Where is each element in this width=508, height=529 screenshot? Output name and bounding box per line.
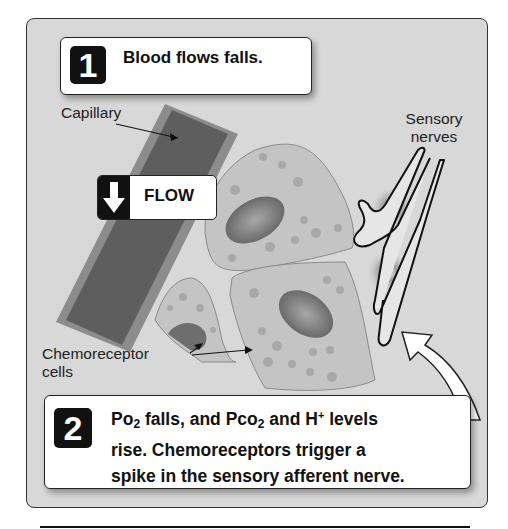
- step-2-badge: 2: [54, 408, 92, 448]
- step-2-line-1: Po2 falls, and Pco2 and H+ levels: [111, 402, 461, 437]
- sensory-nerves-label: Sensory nerves: [394, 110, 474, 146]
- chemo-label-line1: Chemoreceptor: [42, 345, 149, 363]
- po-text: Po: [111, 409, 133, 429]
- sensory-label-line2: nerves: [394, 128, 474, 146]
- chemoreceptor-cell-upper: [205, 144, 354, 270]
- step-1-text: Blood flows falls.: [123, 48, 263, 68]
- chemoreceptor-cell-lower: [230, 262, 375, 390]
- step-1-callout: 1 Blood flows falls.: [60, 37, 312, 95]
- capillary-label: Capillary: [61, 104, 121, 122]
- h-text: and H: [264, 409, 317, 429]
- chemo-label-line2: cells: [42, 363, 149, 381]
- levels-text: levels: [324, 409, 378, 429]
- sensory-nerve: [354, 148, 444, 346]
- step-2-text: Po2 falls, and Pco2 and H+ levels rise. …: [111, 402, 461, 489]
- step-2-line-2: rise. Chemoreceptors trigger a: [111, 437, 461, 463]
- step-2-callout: 2 Po2 falls, and Pco2 and H+ levels rise…: [44, 395, 471, 489]
- bottom-rule: [40, 526, 470, 528]
- sensory-label-line1: Sensory: [394, 110, 474, 128]
- step-2-line-3: spike in the sensory afferent nerve.: [111, 463, 461, 489]
- step-1-badge: 1: [70, 46, 106, 84]
- chemoreceptor-cells-label: Chemoreceptor cells: [42, 345, 149, 381]
- arrow-down-icon: [98, 176, 130, 219]
- pco-text: falls, and Pco: [140, 409, 258, 429]
- flow-label: FLOW: [144, 186, 194, 206]
- flow-indicator: FLOW: [97, 175, 217, 220]
